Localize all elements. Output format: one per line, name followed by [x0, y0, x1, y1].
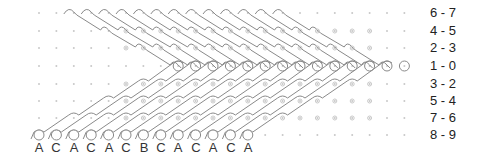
- grid-dot: [55, 100, 57, 102]
- grid-dot: [299, 100, 301, 102]
- upper-strand: [238, 9, 355, 68]
- base-label: C: [119, 141, 133, 155]
- grid-dot: [334, 117, 336, 119]
- grid-dot: [369, 117, 371, 119]
- grid-dot: [369, 100, 371, 102]
- upper-strand: [203, 9, 320, 68]
- upper-strand: [99, 9, 216, 68]
- grid-dot: [73, 30, 75, 32]
- grid-dot: [38, 47, 40, 49]
- grid-dot: [386, 100, 388, 102]
- grid-dot: [38, 117, 40, 119]
- upper-strand: [220, 9, 337, 68]
- grid-dot: [160, 83, 162, 85]
- start-node: [156, 130, 166, 140]
- base-label: C: [189, 141, 203, 155]
- row-label: 2 - 3: [430, 41, 456, 55]
- grid-dot: [55, 47, 57, 49]
- grid-dot: [403, 47, 405, 49]
- grid-dot: [90, 83, 92, 85]
- grid-dot: [351, 134, 353, 136]
- base-label: A: [67, 141, 81, 155]
- grid-dot: [316, 12, 318, 14]
- start-node: [69, 130, 79, 140]
- base-label: A: [206, 141, 220, 155]
- grid-dot: [403, 65, 405, 67]
- grid-dot: [403, 117, 405, 119]
- grid-dot: [403, 100, 405, 102]
- grid-dot: [247, 117, 249, 119]
- grid-dot: [125, 117, 127, 119]
- grid-dot: [142, 65, 144, 67]
- grid-dot: [386, 134, 388, 136]
- grid-dot: [264, 134, 266, 136]
- base-label: C: [224, 141, 238, 155]
- grid-dot: [229, 117, 231, 119]
- grid-dot: [264, 117, 266, 119]
- row-label: 3 - 2: [430, 77, 456, 91]
- grid-dot: [403, 30, 405, 32]
- grid-dot: [108, 100, 110, 102]
- grid-dot: [316, 117, 318, 119]
- base-label: A: [241, 141, 255, 155]
- grid-dot: [247, 83, 249, 85]
- grid-dot: [334, 83, 336, 85]
- grid-dot: [369, 134, 371, 136]
- upper-strand: [151, 9, 268, 68]
- grid-dot: [73, 117, 75, 119]
- grid-dot: [386, 47, 388, 49]
- grid-dot: [212, 83, 214, 85]
- base-label: A: [102, 141, 116, 155]
- grid-dot: [90, 65, 92, 67]
- row-label: 7 - 6: [430, 111, 456, 125]
- grid-dot: [90, 47, 92, 49]
- row-label: 4 - 5: [430, 24, 456, 38]
- grid-dot: [282, 100, 284, 102]
- grid-dot: [73, 83, 75, 85]
- grid-dot: [55, 65, 57, 67]
- grid-dot: [282, 134, 284, 136]
- upper-strand: [186, 9, 303, 68]
- grid-dot: [403, 83, 405, 85]
- grid-dot: [73, 47, 75, 49]
- grid-dot: [334, 12, 336, 14]
- grid-dot: [73, 100, 75, 102]
- grid-dot: [299, 12, 301, 14]
- grid-dot: [38, 83, 40, 85]
- grid-dot: [38, 100, 40, 102]
- grid-dot: [264, 83, 266, 85]
- grid-dot: [90, 30, 92, 32]
- upper-strand: [255, 9, 372, 68]
- grid-dot: [55, 30, 57, 32]
- grid-dot: [264, 100, 266, 102]
- grid-dot: [334, 100, 336, 102]
- grid-dot: [177, 100, 179, 102]
- upper-strand: [116, 9, 233, 68]
- grid-dot: [38, 12, 40, 14]
- row-label: 8 - 9: [430, 128, 456, 142]
- grid-dot: [316, 134, 318, 136]
- base-label: C: [49, 141, 63, 155]
- grid-dot: [369, 83, 371, 85]
- grid-dot: [73, 65, 75, 67]
- grid-dot: [334, 30, 336, 32]
- start-node: [104, 130, 114, 140]
- braid-diagram: [0, 0, 479, 159]
- grid-dot: [369, 47, 371, 49]
- grid-dot: [108, 47, 110, 49]
- lower-strand: [31, 61, 183, 139]
- grid-dot: [108, 83, 110, 85]
- grid-dot: [316, 100, 318, 102]
- base-label: B: [137, 141, 151, 155]
- start-node: [225, 130, 235, 140]
- grid-dot: [38, 65, 40, 67]
- grid-dot: [38, 30, 40, 32]
- grid-dot: [160, 65, 162, 67]
- grid-dot: [55, 117, 57, 119]
- start-node: [191, 130, 201, 140]
- grid-dot: [195, 83, 197, 85]
- grid-dot: [212, 117, 214, 119]
- grid-dot: [142, 83, 144, 85]
- grid-dot: [403, 12, 405, 14]
- grid-dot: [55, 12, 57, 14]
